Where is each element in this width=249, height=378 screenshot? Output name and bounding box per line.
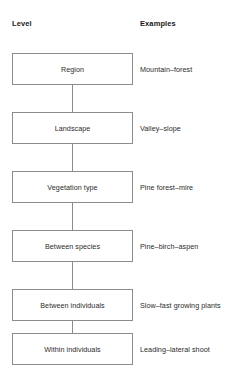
connector-line (72, 85, 73, 112)
level-box-label: Between species (45, 242, 100, 251)
level-box-label: Vegetation type (47, 183, 97, 192)
hierarchy-diagram: Level Examples Region Mountain–forest La… (0, 0, 249, 378)
example-label: Leading–lateral shoot (140, 333, 210, 365)
level-box: Within individuals (12, 333, 133, 365)
level-box: Region (12, 53, 133, 85)
level-box: Landscape (12, 112, 133, 144)
level-box-label: Region (61, 65, 84, 74)
column-header-level: Level (12, 19, 32, 28)
level-box-label: Between individuals (40, 301, 104, 310)
connector-line (72, 262, 73, 289)
hierarchy-row: Within individuals Leading–lateral shoot (0, 333, 249, 365)
hierarchy-row: Region Mountain–forest (0, 53, 249, 85)
hierarchy-row: Between individuals Slow–fast growing pl… (0, 289, 249, 321)
column-header-examples: Examples (140, 19, 176, 28)
hierarchy-row: Vegetation type Pine forest–mire (0, 171, 249, 203)
example-label: Slow–fast growing plants (140, 289, 221, 321)
level-box: Between individuals (12, 289, 133, 321)
level-box: Vegetation type (12, 171, 133, 203)
example-label: Mountain–forest (140, 53, 192, 85)
level-box-label: Within individuals (44, 345, 100, 354)
example-label: Valley–slope (140, 112, 181, 144)
hierarchy-row: Between species Pine–birch–aspen (0, 230, 249, 262)
example-label: Pine–birch–aspen (140, 230, 198, 262)
connector-line (72, 144, 73, 171)
level-box: Between species (12, 230, 133, 262)
connector-line (72, 203, 73, 230)
hierarchy-row: Landscape Valley–slope (0, 112, 249, 144)
example-label: Pine forest–mire (140, 171, 193, 203)
level-box-label: Landscape (55, 124, 91, 133)
